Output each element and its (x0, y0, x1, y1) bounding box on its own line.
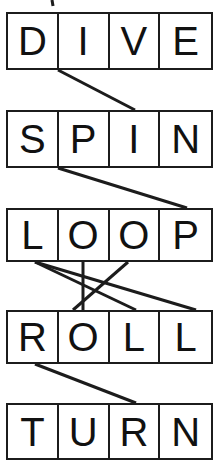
letter-cell-spin-2: I (110, 112, 161, 166)
letter-cell-spin-3: N (160, 112, 211, 166)
letter-cell-loop-3: P (160, 210, 211, 260)
letter-cell-turn-3: N (160, 405, 211, 458)
letter-cell-dive-2: V (110, 14, 161, 68)
letter-cell-dive-1: I (59, 14, 110, 68)
letter-cell-loop-2: O (110, 210, 161, 260)
letter-cell-dive-3: E (160, 14, 211, 68)
connector-roll-r-to-turn-r (35, 364, 136, 403)
letter-cell-roll-0: R (8, 312, 59, 362)
letter-cell-spin-1: P (59, 112, 110, 166)
letter-cell-roll-1: O (59, 312, 110, 362)
letter-cell-dive-0: D (8, 14, 59, 68)
letter-cell-roll-2: L (110, 312, 161, 362)
letter-cell-turn-0: T (8, 405, 59, 458)
word-row-roll: ROLL (6, 310, 213, 364)
connector-spin-p-to-loop-p (58, 168, 187, 208)
letter-cell-spin-0: S (8, 112, 59, 166)
letter-cell-loop-0: L (8, 210, 59, 260)
connector-loop-l-to-roll-l4 (35, 262, 196, 310)
letter-cell-turn-1: U (59, 405, 110, 458)
connector-dive-i-to-spin-i (58, 70, 135, 110)
connector-loop-o3-to-roll-r (73, 262, 128, 310)
word-row-spin: SPIN (6, 110, 213, 168)
letter-matching-puzzle: DIVESPINLOOPROLLTURN (0, 0, 222, 471)
letter-cell-roll-3: L (160, 312, 211, 362)
word-row-loop: LOOP (6, 208, 213, 262)
word-row-turn: TURN (6, 403, 213, 460)
connector-loop-l-to-roll-l3 (35, 262, 136, 310)
letter-cell-turn-2: R (110, 405, 161, 458)
letter-cell-loop-1: O (59, 210, 110, 260)
word-row-dive: DIVE (6, 12, 213, 70)
connector-stub-top-cropped (52, 0, 53, 6)
